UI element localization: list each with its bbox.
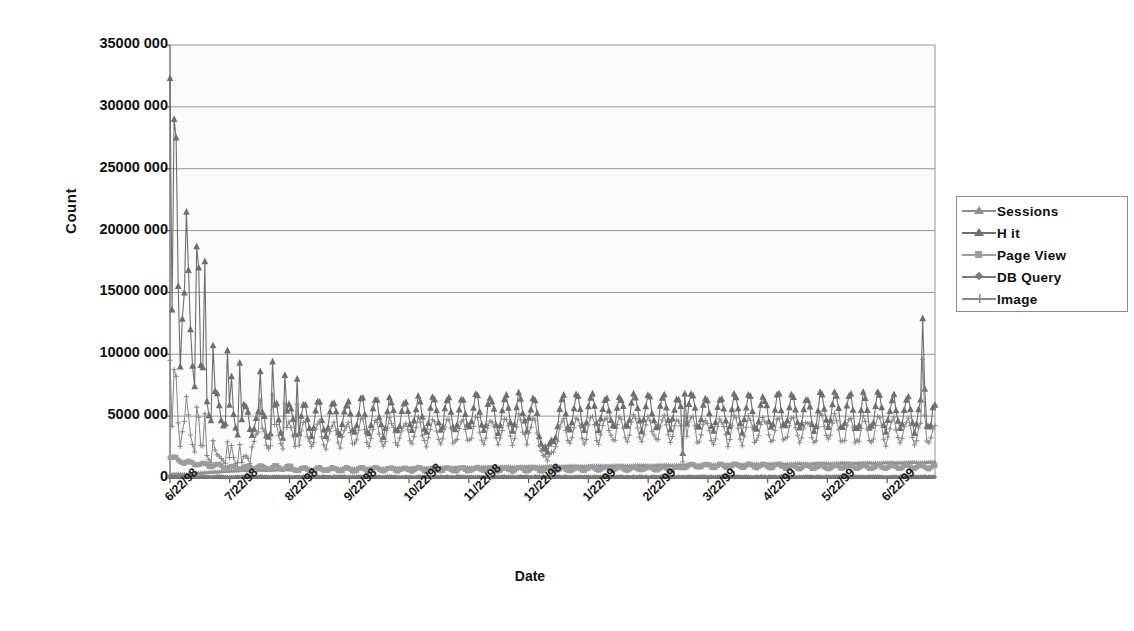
legend-label: Sessions <box>997 204 1059 219</box>
legend-item-h-it[interactable]: H it <box>957 222 1127 244</box>
square-icon <box>961 246 997 264</box>
y-tick-label: 5000 000 <box>8 406 168 422</box>
y-tick-label: 30000 000 <box>8 97 168 113</box>
legend-label: H it <box>997 226 1020 241</box>
plot-area <box>0 0 1134 631</box>
legend-item-image[interactable]: Image <box>957 288 1127 310</box>
legend-label: Image <box>997 292 1038 307</box>
triangle-filled-icon <box>961 224 997 242</box>
legend-item-sessions[interactable]: Sessions <box>957 200 1127 222</box>
triangle-icon <box>961 202 997 220</box>
y-tick-label: 15000 000 <box>8 282 168 298</box>
chart-legend: SessionsH itPage ViewDB QueryImage <box>956 196 1128 312</box>
legend-item-page-view[interactable]: Page View <box>957 244 1127 266</box>
y-tick-label: 25000 000 <box>8 159 168 175</box>
legend-label: Page View <box>997 248 1066 263</box>
y-tick-label: 10000 000 <box>8 344 168 360</box>
x-axis-title: Date <box>430 568 630 584</box>
plus-icon <box>961 290 997 308</box>
legend-label: DB Query <box>997 270 1062 285</box>
diamond-icon <box>961 268 997 286</box>
legend-item-db-query[interactable]: DB Query <box>957 266 1127 288</box>
chart-container: Count 05000 00010000 00015000 00020000 0… <box>0 0 1134 631</box>
y-axis-tick-labels: 05000 00010000 00015000 00020000 0002500… <box>0 0 168 631</box>
y-tick-label: 35000 000 <box>8 35 168 51</box>
y-tick-label: 0 <box>8 468 168 484</box>
y-tick-label: 20000 000 <box>8 221 168 237</box>
